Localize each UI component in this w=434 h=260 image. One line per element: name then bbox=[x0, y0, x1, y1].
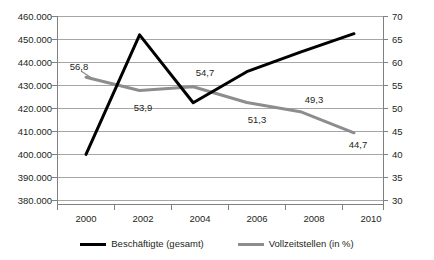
x-tick-label-2000: 2000 bbox=[56, 214, 116, 224]
x-tick-label-2002: 2002 bbox=[113, 214, 173, 224]
data-label-2006: 51,3 bbox=[240, 115, 274, 125]
y-right-tick-label: 65 bbox=[392, 35, 403, 45]
x-tick-label-2006: 2006 bbox=[227, 214, 287, 224]
y-right-tick-label: 35 bbox=[392, 173, 403, 183]
x-axis-ticks bbox=[58, 205, 384, 210]
legend-item-beschaeftigte: Beschäftigte (gesamt) bbox=[80, 239, 203, 249]
y-left-tick-label: 380.000 bbox=[0, 196, 52, 206]
y-right-tick-label: 30 bbox=[392, 196, 403, 206]
legend-swatch-icon bbox=[80, 243, 106, 246]
legend-label: Vollzeitstellen (in %) bbox=[269, 239, 354, 249]
y-left-tick-label: 440.000 bbox=[0, 58, 52, 68]
y-left-tick-label: 430.000 bbox=[0, 81, 52, 91]
y-right-tick-label: 40 bbox=[392, 150, 403, 160]
data-label-2008: 49,3 bbox=[297, 95, 331, 105]
line-chart: 460.000 450.000 440.000 430.000 420.000 … bbox=[0, 0, 434, 260]
x-tick-label-2010: 2010 bbox=[341, 214, 401, 224]
y-right-tick-label: 60 bbox=[392, 58, 403, 68]
legend-item-vollzeitstellen: Vollzeitstellen (in %) bbox=[238, 239, 354, 249]
x-tick-label-2008: 2008 bbox=[284, 214, 344, 224]
y-right-tick-label: 45 bbox=[392, 127, 403, 137]
data-label-2000: 56,8 bbox=[62, 62, 96, 72]
legend-label: Beschäftigte (gesamt) bbox=[111, 239, 203, 249]
data-label-2002: 53,9 bbox=[126, 103, 160, 113]
y-left-tick-label: 450.000 bbox=[0, 35, 52, 45]
chart-legend: Beschäftigte (gesamt) Vollzeitstellen (i… bbox=[0, 233, 434, 255]
y-left-tick-label: 410.000 bbox=[0, 127, 52, 137]
y-right-tick-label: 55 bbox=[392, 81, 403, 91]
y-left-tick-label: 420.000 bbox=[0, 104, 52, 114]
y-left-tick-label: 400.000 bbox=[0, 150, 52, 160]
data-label-2004: 54,7 bbox=[188, 68, 222, 78]
data-label-2010: 44,7 bbox=[341, 140, 375, 150]
x-tick-label-2004: 2004 bbox=[170, 214, 230, 224]
legend-swatch-icon bbox=[238, 243, 264, 246]
y-right-tick-label: 70 bbox=[392, 12, 403, 22]
y-left-tick-label: 460.000 bbox=[0, 12, 52, 22]
left-axis-ticks bbox=[52, 17, 57, 201]
y-left-tick-label: 390.000 bbox=[0, 173, 52, 183]
y-right-tick-label: 50 bbox=[392, 104, 403, 114]
